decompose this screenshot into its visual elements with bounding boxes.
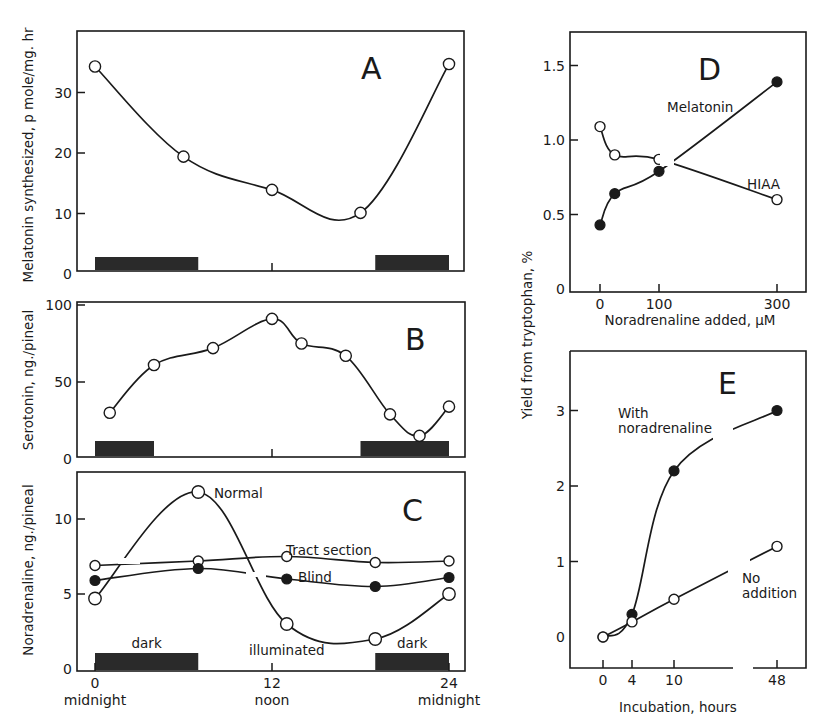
data-point bbox=[595, 122, 605, 132]
panel-e-frame bbox=[570, 351, 806, 668]
line-gap bbox=[660, 152, 674, 166]
data-point bbox=[340, 350, 351, 361]
data-point bbox=[384, 409, 395, 420]
annotation-tract-section: Tract section bbox=[285, 542, 372, 558]
shared-ylabel-yield: Yield from tryptophan, % bbox=[519, 251, 535, 421]
panel-b-letter: B bbox=[405, 322, 426, 357]
dark-period-bar bbox=[375, 653, 449, 670]
y-tick-label: 0 bbox=[63, 451, 72, 467]
series-line-tract-section bbox=[95, 556, 449, 565]
panel-b-ylabel: Serotonin, ng./pineal bbox=[20, 310, 36, 451]
data-point bbox=[192, 486, 204, 498]
annotation-noradrenaline: noradrenaline bbox=[618, 420, 712, 436]
panel-a-ylabel: Melatonin synthesized, p mole/mg. hr bbox=[20, 27, 36, 282]
dark-period-bar bbox=[95, 653, 198, 670]
x-tick-label: 0 bbox=[91, 675, 100, 691]
y-tick-label: 0 bbox=[556, 281, 565, 297]
data-point bbox=[266, 184, 277, 195]
annotation-addition: addition bbox=[742, 585, 797, 601]
y-tick-label: 0 bbox=[63, 266, 72, 282]
line-gap bbox=[246, 572, 266, 577]
x-tick-label: 48 bbox=[768, 672, 786, 688]
period-label: dark bbox=[397, 635, 427, 651]
annotation-blind: Blind bbox=[298, 569, 332, 585]
panel-b: 050100 B Serotonin, ng./pineal bbox=[20, 297, 465, 467]
data-point bbox=[370, 582, 380, 592]
y-tick-label: 100 bbox=[45, 297, 72, 313]
series-line-melatonin bbox=[95, 64, 449, 220]
y-tick-label: 10 bbox=[54, 206, 72, 222]
data-point bbox=[598, 632, 608, 642]
x-tick-sublabel: midnight bbox=[64, 692, 127, 708]
data-point bbox=[443, 401, 454, 412]
panel-a: 0102030 A Melatonin synthesized, p mole/… bbox=[20, 27, 464, 282]
data-point bbox=[595, 220, 605, 230]
annotation-melatonin: Melatonin bbox=[667, 99, 733, 115]
data-point bbox=[669, 594, 679, 604]
data-point bbox=[193, 564, 203, 574]
panel-c: darkilluminateddark 0510 0midnight12noon… bbox=[20, 472, 481, 708]
data-point bbox=[282, 574, 292, 584]
data-point bbox=[266, 313, 277, 324]
x-tick-label: 10 bbox=[665, 672, 683, 688]
data-point bbox=[414, 430, 425, 441]
data-point bbox=[610, 150, 620, 160]
dark-period-bar bbox=[95, 257, 198, 270]
data-point bbox=[90, 561, 100, 571]
data-point bbox=[443, 588, 455, 600]
x-tick-label: 100 bbox=[646, 296, 673, 312]
series-line-blind bbox=[95, 568, 449, 586]
data-point bbox=[444, 573, 454, 583]
series-line-serotonin bbox=[110, 319, 449, 436]
panel-d-xlabel: Noradrenaline added, µM bbox=[605, 312, 776, 328]
panel-d: 00.51.01.5 0100300 D Noradrenaline added… bbox=[543, 32, 806, 328]
x-tick-label: 24 bbox=[440, 675, 458, 691]
x-tick-sublabel: noon bbox=[255, 692, 290, 708]
data-point bbox=[207, 343, 218, 354]
x-tick-label: 0 bbox=[599, 672, 608, 688]
panel-e-letter: E bbox=[718, 366, 737, 401]
data-point bbox=[669, 466, 679, 476]
data-point bbox=[370, 558, 380, 568]
dark-period-bar bbox=[375, 255, 449, 270]
data-point bbox=[772, 77, 782, 87]
data-point bbox=[610, 189, 620, 199]
y-tick-label: 2 bbox=[556, 478, 565, 494]
data-point bbox=[772, 541, 782, 551]
data-point bbox=[178, 151, 189, 162]
data-point bbox=[369, 633, 381, 645]
data-point bbox=[355, 207, 366, 218]
data-point bbox=[89, 61, 100, 72]
data-point bbox=[772, 406, 782, 416]
dark-period-bar bbox=[361, 441, 450, 456]
panel-d-letter: D bbox=[698, 52, 721, 87]
series-line-normal bbox=[95, 492, 449, 644]
x-tick-label: 4 bbox=[628, 672, 637, 688]
data-point bbox=[281, 618, 293, 630]
panel-e-xlabel: Incubation, hours bbox=[619, 699, 737, 715]
y-tick-label: 3 bbox=[556, 403, 565, 419]
data-point bbox=[772, 195, 782, 205]
y-tick-label: 10 bbox=[54, 511, 72, 527]
y-tick-label: 0 bbox=[556, 629, 565, 645]
x-tick-label: 300 bbox=[764, 296, 791, 312]
panel-c-letter: C bbox=[402, 493, 423, 528]
data-point bbox=[654, 166, 664, 176]
y-tick-label: 20 bbox=[54, 145, 72, 161]
annotation-with: With bbox=[618, 405, 649, 421]
period-label: illuminated bbox=[249, 642, 325, 658]
y-tick-label: 1.0 bbox=[543, 132, 565, 148]
data-point bbox=[90, 576, 100, 586]
x-tick-sublabel: midnight bbox=[418, 692, 481, 708]
data-point bbox=[627, 617, 637, 627]
y-tick-label: 50 bbox=[54, 374, 72, 390]
panel-a-frame bbox=[77, 31, 464, 271]
x-tick-label: 0 bbox=[596, 296, 605, 312]
period-label: dark bbox=[132, 635, 162, 651]
y-tick-label: 1 bbox=[556, 554, 565, 570]
y-tick-label: 0.5 bbox=[543, 207, 565, 223]
data-point bbox=[148, 359, 159, 370]
series-line-with-noradrenaline bbox=[603, 411, 777, 638]
y-tick-label: 1.5 bbox=[543, 58, 565, 74]
data-point bbox=[89, 592, 101, 604]
